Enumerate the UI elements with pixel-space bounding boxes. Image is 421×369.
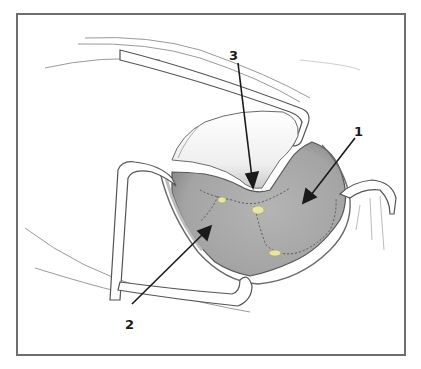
- callout-label-2: 2: [125, 318, 134, 331]
- right-tissue-strands: [356, 196, 384, 250]
- callout-label-3: 3: [229, 49, 238, 62]
- surgical-illustration: [0, 0, 421, 369]
- right-retractor: [340, 180, 396, 214]
- callout-label-1: 1: [354, 125, 363, 138]
